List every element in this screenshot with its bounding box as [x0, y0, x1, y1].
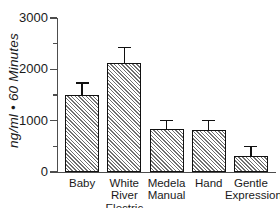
- bar: [107, 63, 141, 172]
- bar-group: [107, 18, 141, 172]
- bar: [65, 95, 99, 172]
- bar-chart-figure: ng/ml • 60 Minutes 0100020003000 BabyWhi…: [0, 0, 280, 208]
- bar: [192, 130, 226, 172]
- y-axis-tick-label: 1000: [19, 113, 48, 128]
- y-axis-tick-minor: [53, 94, 58, 95]
- x-axis-tick-label: GentleExpressions: [225, 177, 277, 202]
- bar-group: [150, 18, 184, 172]
- error-bar-cap: [160, 120, 173, 121]
- bar-group: [234, 18, 268, 172]
- x-axis-tick-label-line: Expressions: [225, 189, 277, 201]
- error-bar-stem: [166, 121, 167, 129]
- y-axis-tick-label: 2000: [19, 61, 48, 76]
- bar-group: [192, 18, 226, 172]
- error-bar-cap: [76, 82, 89, 83]
- plot-area: [57, 18, 276, 172]
- y-axis-tick-major: [50, 120, 57, 121]
- y-axis-tick-label: 3000: [19, 10, 48, 25]
- error-bar-stem: [81, 83, 82, 95]
- y-axis-tick-minor: [53, 146, 58, 147]
- x-axis-line: [57, 172, 276, 173]
- y-axis-tick-major: [50, 171, 57, 172]
- error-bar-cap: [244, 146, 257, 147]
- x-axis-tick-label-line: Gentle: [225, 177, 277, 189]
- error-bar-cap: [202, 120, 215, 121]
- error-bar-stem: [124, 47, 125, 63]
- y-axis-title-container: ng/ml • 60 Minutes: [0, 0, 26, 180]
- bar-group: [65, 18, 99, 172]
- y-axis-tick-major: [50, 17, 57, 18]
- error-bar-cap: [118, 47, 131, 48]
- error-bar-stem: [250, 146, 251, 155]
- x-axis-tick-label-line: Manual: [141, 189, 193, 201]
- error-bar-stem: [208, 121, 209, 130]
- x-axis-tick-label-line: Electric: [98, 202, 150, 208]
- y-axis-title: ng/ml • 60 Minutes: [6, 33, 21, 148]
- bar: [234, 156, 268, 172]
- bar: [150, 129, 184, 172]
- y-axis-tick-major: [50, 69, 57, 70]
- y-axis-tick-minor: [53, 43, 58, 44]
- y-axis-tick-label: 0: [41, 164, 48, 179]
- y-axis-line: [57, 18, 58, 172]
